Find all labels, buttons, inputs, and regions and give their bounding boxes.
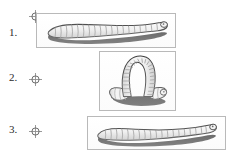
worm-head-dot-icon <box>212 126 214 128</box>
figure-root: 1. <box>0 0 231 152</box>
worm-head-dot-icon <box>163 91 165 93</box>
worm-contracted-illustration <box>88 117 225 149</box>
row-number-3: 3. <box>9 124 17 135</box>
worm-extended-illustration <box>37 14 175 47</box>
crosshair-target-icon <box>29 72 42 85</box>
worm-arched-panel <box>99 51 176 111</box>
worm-arched-illustration <box>100 52 175 110</box>
worm-contracted-panel <box>87 116 226 150</box>
worm-head-dot-icon <box>163 23 165 25</box>
worm-extended-panel <box>36 13 176 48</box>
row-number-1: 1. <box>9 27 17 38</box>
worm-arch <box>122 56 155 96</box>
crosshair-target-icon <box>29 124 42 137</box>
row-number-2: 2. <box>9 72 17 83</box>
